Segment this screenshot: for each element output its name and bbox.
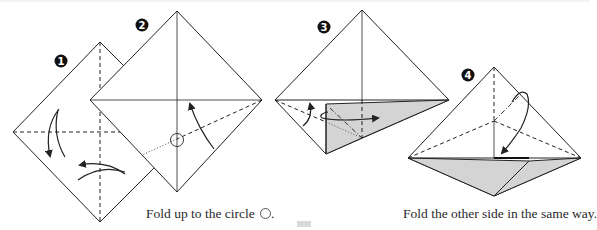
step4-caption: Fold the other side in the same way. (403, 206, 597, 222)
step4-badge: 4 (462, 69, 475, 82)
step1-badge: 1 (55, 55, 68, 68)
gray-swatch (297, 221, 311, 227)
step2-number: 2 (139, 20, 146, 31)
step2-badge: 2 (136, 19, 149, 32)
step4-number: 4 (465, 70, 472, 81)
step3-number: 3 (321, 22, 328, 33)
step3-badge: 3 (318, 21, 331, 34)
step2-caption: Fold up to the circle . (146, 206, 274, 222)
step2-caption-text: Fold up to the circle (146, 206, 255, 221)
circle-outline-icon (260, 208, 271, 219)
step3-diagram: 3 (275, 10, 449, 154)
step2-caption-suffix: . (271, 206, 274, 221)
step1-number: 1 (58, 56, 65, 67)
